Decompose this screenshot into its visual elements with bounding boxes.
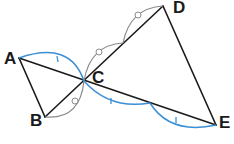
- equal-circle-mark-md: [135, 12, 141, 18]
- label-b: B: [30, 111, 42, 130]
- geometry-diagram: A B C D E: [0, 0, 234, 144]
- label-c: C: [92, 68, 104, 87]
- equal-tick-mark-ac: [57, 56, 58, 62]
- equal-circle-mark-cm: [96, 49, 102, 55]
- label-e: E: [219, 113, 230, 132]
- label-a: A: [4, 49, 16, 68]
- segment-ab: [19, 58, 45, 117]
- segment-de: [163, 6, 216, 125]
- segment-ae: [19, 58, 216, 125]
- label-d: D: [173, 0, 185, 17]
- equal-circle-mark-bc: [72, 98, 78, 104]
